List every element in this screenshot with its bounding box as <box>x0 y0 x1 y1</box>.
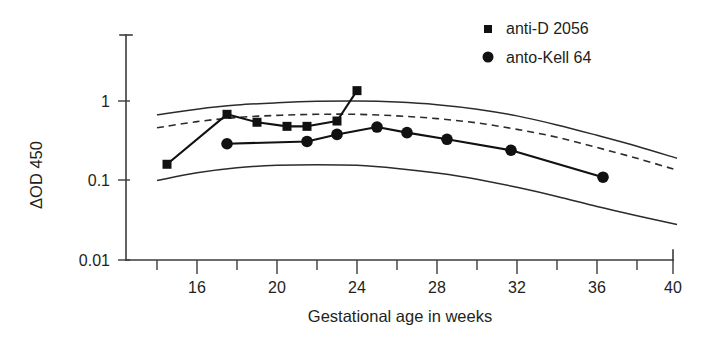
x-axis-tick-labels: 16 20 24 28 32 36 40 <box>188 279 682 296</box>
reference-curve-group <box>157 101 677 224</box>
reference-curve-liley-upper-zone-boundary <box>157 101 677 158</box>
x-tick-label-40: 40 <box>664 279 682 296</box>
axis-frame <box>120 35 673 260</box>
x-tick-label-36: 36 <box>588 279 606 296</box>
data-point-square <box>223 110 232 119</box>
data-point-square <box>163 160 172 169</box>
legend-label-anti-d: anti-D 2056 <box>506 20 589 37</box>
data-point-square <box>353 86 362 95</box>
data-point-circle <box>505 144 517 156</box>
data-point-circle <box>221 138 233 150</box>
y-axis-tick-labels: 1 0.1 0.01 <box>79 93 110 269</box>
legend: anti-D 2056 anto-Kell 64 <box>483 20 592 66</box>
x-axis-ticks <box>157 260 673 274</box>
data-point-circle <box>331 129 343 141</box>
x-tick-label-16: 16 <box>188 279 206 296</box>
chart-canvas: 1 0.1 0.01 ΔOD 450 16 20 24 28 <box>0 0 711 343</box>
series-anti-d-2056 <box>163 86 362 169</box>
x-axis-title: Gestational age in weeks <box>308 307 492 325</box>
legend-marker-square <box>484 25 492 33</box>
x-tick-label-28: 28 <box>428 279 446 296</box>
data-point-circle <box>597 171 609 183</box>
x-tick-label-32: 32 <box>508 279 526 296</box>
y-tick-label-0p01: 0.01 <box>79 252 110 269</box>
data-point-square <box>303 122 312 131</box>
data-point-circle <box>301 136 313 148</box>
y-tick-label-1: 1 <box>101 93 110 110</box>
x-tick-label-20: 20 <box>268 279 286 296</box>
data-point-square <box>333 117 342 126</box>
legend-marker-circle <box>483 52 494 63</box>
data-point-circle <box>371 121 383 133</box>
series-anti-kell-64 <box>221 121 609 183</box>
legend-label-anti-kell: anto-Kell 64 <box>506 49 591 66</box>
data-point-circle <box>401 127 413 139</box>
y-axis-ticks <box>118 101 130 260</box>
y-tick-label-0p1: 0.1 <box>88 172 110 189</box>
data-point-square <box>253 118 262 127</box>
y-axis-title: ΔOD 450 <box>27 141 45 209</box>
reference-curve-liley-mid-zone-boundary <box>157 114 677 170</box>
data-point-circle <box>441 133 453 145</box>
chart-figure: 1 0.1 0.01 ΔOD 450 16 20 24 28 <box>0 0 711 343</box>
data-point-square <box>283 122 292 131</box>
x-tick-label-24: 24 <box>348 279 366 296</box>
